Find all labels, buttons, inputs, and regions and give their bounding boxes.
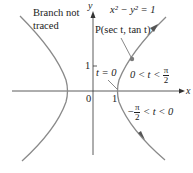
- right-branch-curve: [118, 17, 167, 160]
- origin-label: 0: [86, 94, 91, 105]
- x-tick-label: 1: [112, 94, 117, 105]
- equation-label: x² − y² = 1: [110, 5, 156, 16]
- y-axis-label: y: [88, 1, 92, 11]
- t-zero-label: t = 0: [96, 68, 117, 79]
- upper-range-label: 0 < t < π2: [130, 66, 169, 85]
- branch-note-line2: traced: [33, 21, 59, 32]
- lower-range-label: −π2 < t < 0: [128, 103, 173, 122]
- point-p: [130, 57, 134, 61]
- t0-leader-line: [108, 80, 117, 89]
- x-axis-arrow-icon: [179, 89, 185, 94]
- branch-note-line1: Branch not: [33, 8, 79, 19]
- point-leader-line: [121, 38, 131, 57]
- y-axis-arrow-icon: [91, 11, 96, 18]
- pi-over-2-fraction: π2: [134, 103, 141, 122]
- arrow-lower-icon: [138, 131, 145, 140]
- point-label: P(sec t, tan t): [95, 25, 150, 36]
- x-axis-label: x: [186, 86, 190, 96]
- y-tick-label: 1: [85, 61, 90, 72]
- pi-over-2-fraction: π2: [163, 66, 170, 85]
- left-branch-curve: [20, 16, 68, 161]
- arrow-upper-icon: [150, 24, 158, 32]
